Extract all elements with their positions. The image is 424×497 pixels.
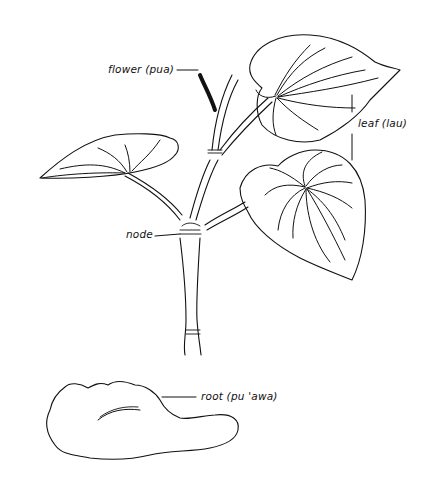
leaf-lower-right	[240, 150, 365, 280]
root-label: root (pu 'awa)	[201, 390, 278, 402]
flower-label: flower (pua)	[108, 63, 174, 75]
node-label: node	[126, 228, 153, 240]
flower-spike	[200, 75, 215, 110]
node-leader	[155, 234, 180, 236]
plant-illustration	[0, 0, 424, 497]
leaf-label: leaf (lau)	[358, 117, 407, 129]
leaf-left	[40, 134, 178, 178]
